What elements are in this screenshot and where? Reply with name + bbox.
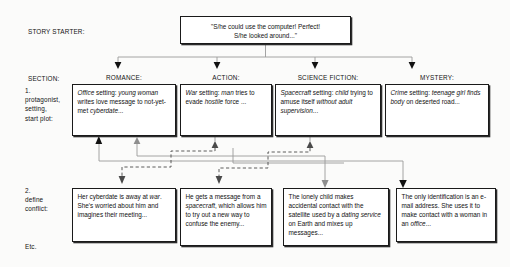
cell-romance-row1-text: Office setting: young woman writes love … (73, 85, 175, 119)
dashed-link-heads (119, 141, 314, 184)
cell-romance-row2-text: Her cyberdate is away at war. She's worr… (73, 189, 175, 223)
story-starter-line-1: "S/he could use the computer! Perfect! (186, 22, 346, 32)
cell-action-row2[interactable]: He gets a message from a spacecraft, whi… (180, 188, 272, 246)
row1-label: 1. protagonist, setting, start plot: (25, 86, 60, 123)
column-heading-mystery: MYSTERY: (385, 74, 489, 81)
cell-mystery-row1-text: Crime setting: teenage girl finds body o… (386, 85, 488, 110)
cell-mystery-row2-text: The only identification is an e-mail add… (397, 189, 495, 232)
row2-label: 2. define conflict: (25, 186, 48, 214)
cell-science-fiction-row2[interactable]: The lonely child makes accidental contac… (283, 188, 389, 246)
story-starter-line-2: S/he looked around..." (186, 31, 346, 41)
story-starter-text: "S/he could use the computer! Perfect! S… (181, 17, 350, 44)
link-romance-to-scifi-head (399, 180, 407, 188)
cell-romance-row1[interactable]: Office setting: young woman writes love … (72, 84, 176, 136)
arrow-up-into-romance-row1 (95, 136, 102, 144)
cell-action-row1-text: War setting: man tries to evade hostile … (181, 85, 271, 110)
cell-science-fiction-row2-text: The lonely child makes accidental contac… (284, 189, 388, 241)
story-starter-label: STORY STARTER: (28, 27, 85, 36)
row1-bottom-stubs (215, 136, 310, 141)
link-romance-to-scifi (99, 138, 403, 180)
story-starter-box[interactable]: "S/he could use the computer! Perfect! S… (180, 16, 351, 44)
section-label: SECTION: (28, 74, 59, 83)
cell-science-fiction-row1-text: Spacecraft setting: child trying to amus… (276, 85, 380, 119)
cell-mystery-row2[interactable]: The only identification is an e-mail add… (396, 188, 496, 242)
starter-distribution-bus (118, 44, 412, 62)
etc-label: Etc. (25, 242, 37, 251)
cell-science-fiction-row1[interactable]: Spacecraft setting: child trying to amus… (275, 84, 381, 136)
column-heading-action: ACTION: (180, 74, 272, 81)
cell-romance-row2[interactable]: Her cyberdate is away at war. She's worr… (72, 188, 176, 242)
link-solid-grey-heads (134, 137, 329, 188)
dashed-links (122, 148, 310, 176)
story-grid-diagram: STORY STARTER: "S/he could use the compu… (0, 0, 510, 267)
starter-arrowheads (115, 62, 416, 69)
link-solid-grey-bus (137, 144, 344, 180)
cell-mystery-row1[interactable]: Crime setting: teenage girl finds body o… (385, 84, 489, 136)
cell-action-row2-text: He gets a message from a spacecraft, whi… (181, 189, 271, 232)
column-heading-science-fiction: SCIENCE FICTION: (275, 74, 381, 81)
cell-action-row1[interactable]: War setting: man tries to evade hostile … (180, 84, 272, 136)
column-heading-romance: ROMANCE: (72, 74, 176, 81)
